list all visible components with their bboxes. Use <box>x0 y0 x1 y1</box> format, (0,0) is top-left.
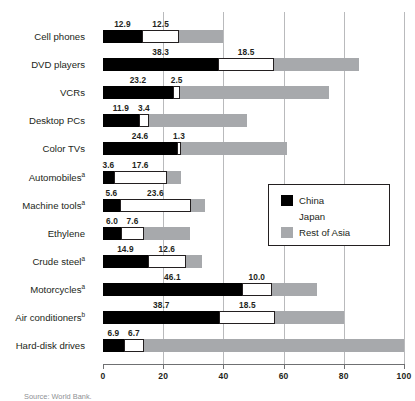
category-label: Ethylene <box>0 227 85 240</box>
rest-of-asia-swatch-icon <box>281 227 293 238</box>
bar-segment-japan <box>148 255 186 268</box>
chart-row: Crude steela14.912.6 <box>103 255 404 268</box>
stacked-bar-chart: 020406080100Cell phones12.912.5DVD playe… <box>0 0 415 401</box>
data-label: 12.6 <box>159 244 176 254</box>
bar-segment-rest-of-asia <box>144 227 190 240</box>
bar-segment-japan <box>139 114 149 127</box>
data-label: 12.9 <box>114 19 131 29</box>
bar-segment-japan <box>124 339 144 352</box>
data-label: 11.9 <box>113 103 129 113</box>
legend-label-rest-of-asia: Rest of Asia <box>299 227 350 238</box>
bar-segment-china <box>103 227 121 240</box>
data-label: 6.9 <box>107 328 119 338</box>
x-axis-tick-label: 40 <box>218 371 228 381</box>
bar-segment-rest-of-asia <box>167 171 181 184</box>
bar-segment-japan <box>120 199 191 212</box>
bar-segment-china <box>103 114 139 127</box>
data-label: 1.3 <box>173 131 185 141</box>
bar-segment-rest-of-asia <box>275 311 344 324</box>
category-label: Machine toolsa <box>0 199 85 212</box>
chart-row: VCRs23.22.5 <box>103 86 404 99</box>
bar-segment-rest-of-asia <box>181 142 287 155</box>
data-label: 5.6 <box>106 188 118 198</box>
data-label: 38.7 <box>153 300 170 310</box>
bar-segment-rest-of-asia <box>179 30 223 43</box>
data-label: 6.0 <box>106 216 118 226</box>
bar-segment-japan <box>114 171 167 184</box>
bar-segment-china <box>103 283 242 296</box>
category-footnote-marker: a <box>81 198 85 205</box>
bar-segment-china <box>103 30 142 43</box>
x-axis-tick-label: 100 <box>397 371 412 381</box>
bar-segment-rest-of-asia <box>191 199 205 212</box>
data-label: 17.6 <box>132 160 149 170</box>
chart-row: Automobilesa3.617.6 <box>103 171 404 184</box>
category-label: Automobilesa <box>0 171 85 184</box>
gridline <box>404 12 405 364</box>
bar-segment-rest-of-asia <box>149 114 247 127</box>
bar-segment-japan <box>242 283 272 296</box>
chart-row: Color TVs24.61.3 <box>103 142 404 155</box>
china-swatch-icon <box>281 195 293 206</box>
bar-segment-japan <box>173 86 181 99</box>
bar-segment-rest-of-asia <box>272 283 317 296</box>
x-axis-tick-label: 20 <box>158 371 168 381</box>
bar-segment-japan <box>219 311 275 324</box>
category-footnote-marker: a <box>81 170 85 177</box>
category-footnote-marker: b <box>81 311 85 318</box>
japan-swatch-icon <box>281 211 293 222</box>
chart-row: Cell phones12.912.5 <box>103 30 404 43</box>
data-label: 3.6 <box>102 160 114 170</box>
bar-segment-rest-of-asia <box>274 58 359 71</box>
bar-segment-rest-of-asia <box>180 86 328 99</box>
bar-segment-china <box>103 311 219 324</box>
data-label: 2.5 <box>171 75 183 85</box>
bar-segment-japan <box>218 58 274 71</box>
bar-segment-china <box>103 142 177 155</box>
category-label: Desktop PCs <box>0 114 85 127</box>
data-label: 12.5 <box>152 19 169 29</box>
legend-label-japan: Japan <box>299 211 325 222</box>
category-label: Hard-disk drives <box>0 339 85 352</box>
category-label: Cell phones <box>0 30 85 43</box>
category-footnote-marker: a <box>81 255 85 262</box>
bar-segment-china <box>103 199 120 212</box>
x-axis-tick-label: 0 <box>101 371 106 381</box>
legend-label-china: China <box>299 195 324 206</box>
x-axis-line <box>103 364 405 365</box>
data-label: 18.5 <box>239 300 256 310</box>
category-label: Motorcyclesa <box>0 283 85 296</box>
x-axis-tick-label: 60 <box>279 371 289 381</box>
data-label: 38.3 <box>152 47 169 57</box>
bar-segment-china <box>103 339 124 352</box>
category-label: Air conditionersb <box>0 311 85 324</box>
data-label: 7.6 <box>127 216 139 226</box>
category-label: Crude steela <box>0 255 85 268</box>
source-note: Source: World Bank. <box>24 392 92 401</box>
chart-row: Air conditionersb38.718.5 <box>103 311 404 324</box>
category-footnote-marker: a <box>81 283 85 290</box>
chart-legend: China Japan Rest of Asia <box>268 184 390 246</box>
chart-row: DVD players38.318.5 <box>103 58 404 71</box>
chart-row: Motorcyclesa46.110.0 <box>103 283 404 296</box>
category-label: DVD players <box>0 58 85 71</box>
chart-row: Hard-disk drives6.96.7 <box>103 339 404 352</box>
data-label: 24.6 <box>132 131 149 141</box>
data-label: 46.1 <box>164 272 181 282</box>
bar-segment-china <box>103 58 218 71</box>
legend-item-japan: Japan <box>281 210 325 223</box>
data-label: 18.5 <box>238 47 255 57</box>
data-label: 14.9 <box>117 244 134 254</box>
x-axis-tick-label: 80 <box>339 371 349 381</box>
data-label: 6.7 <box>128 328 140 338</box>
data-label: 10.0 <box>249 272 266 282</box>
bar-segment-china <box>103 86 173 99</box>
bar-segment-rest-of-asia <box>144 339 404 352</box>
data-label: 23.6 <box>147 188 164 198</box>
bar-segment-japan <box>142 30 180 43</box>
bar-segment-china <box>103 255 148 268</box>
data-label: 23.2 <box>130 75 147 85</box>
category-label: VCRs <box>0 86 85 99</box>
data-label: 3.4 <box>138 103 150 113</box>
bar-segment-rest-of-asia <box>186 255 203 268</box>
